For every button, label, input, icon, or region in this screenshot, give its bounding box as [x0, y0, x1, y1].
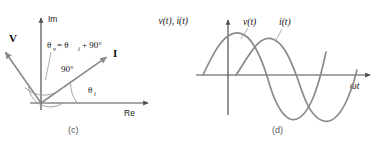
vector-i — [41, 57, 107, 103]
theta-v-equals-theta: = θ — [57, 40, 69, 50]
theta-v-leader — [46, 52, 52, 80]
vector-v-label: V — [9, 32, 17, 44]
theta-i-subscript-eq: i — [78, 45, 80, 52]
figure-root: Im Re I V θ v = θ i + 90° — [0, 0, 391, 148]
figure-svg: Im Re I V θ v = θ i + 90° — [0, 0, 391, 148]
theta-v-arc — [28, 85, 63, 107]
voltage-curve-label: v(t) — [243, 17, 256, 28]
theta-i-label: θ i — [88, 85, 96, 97]
vector-i-label: I — [113, 47, 117, 59]
theta-v-plus-ninety: + 90° — [82, 40, 102, 50]
right-angle-label: 90° — [61, 64, 74, 74]
caption-d: (d) — [272, 125, 283, 135]
current-label-leader — [275, 29, 282, 42]
theta-v-equation: θ v = θ i + 90° — [47, 40, 102, 52]
theta-i-symbol: θ — [88, 85, 92, 95]
theta-i-arc — [70, 82, 77, 103]
waveform-y-axis-label: v(t), i(t) — [158, 16, 188, 27]
current-curve-label: i(t) — [279, 17, 291, 28]
theta-v-symbol: θ — [47, 40, 51, 50]
panel-d: v(t), i(t) ωt v(t) i(t) (d) — [158, 16, 370, 135]
panel-c: Im Re I V θ v = θ i + 90° — [5, 14, 148, 135]
caption-c: (c) — [68, 125, 79, 135]
imaginary-axis-label: Im — [48, 14, 57, 24]
theta-i-subscript: i — [94, 90, 96, 97]
theta-v-subscript: v — [53, 45, 56, 52]
vector-v — [5, 52, 41, 103]
real-axis-label: Re — [124, 108, 135, 118]
current-curve — [236, 38, 357, 121]
